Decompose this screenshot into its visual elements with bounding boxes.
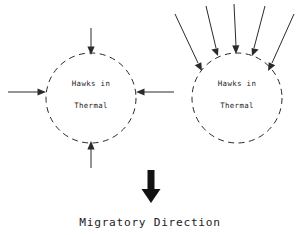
left-arrow-top bbox=[87, 28, 94, 55]
right-arrow-1 bbox=[175, 14, 202, 71]
left-thermal-label-line2: Thermal bbox=[74, 101, 108, 110]
right-thermal-label-line2: Thermal bbox=[220, 101, 254, 110]
left-arrow-west bbox=[8, 88, 46, 95]
right-thermal-label-line1: Hawks in bbox=[218, 79, 256, 88]
right-arrow-3 bbox=[232, 4, 239, 54]
left-thermal-circle bbox=[46, 53, 136, 143]
left-thermal-group: Hawks in Thermal bbox=[8, 28, 174, 168]
hawks-thermal-figure: Hawks in Thermal bbox=[0, 0, 301, 235]
left-thermal-label-line1: Hawks in bbox=[72, 79, 110, 88]
migratory-direction-arrow bbox=[142, 170, 161, 203]
right-arrow-5 bbox=[268, 14, 294, 71]
left-arrow-east bbox=[136, 88, 174, 95]
diagram-canvas: Hawks in Thermal bbox=[0, 0, 301, 235]
right-thermal-group: Hawks in Thermal bbox=[175, 4, 294, 143]
right-arrow-4 bbox=[252, 6, 265, 56]
right-arrow-2 bbox=[206, 6, 218, 56]
left-arrow-bottom bbox=[87, 141, 94, 168]
migratory-direction-caption: Migratory Direction bbox=[79, 216, 220, 229]
